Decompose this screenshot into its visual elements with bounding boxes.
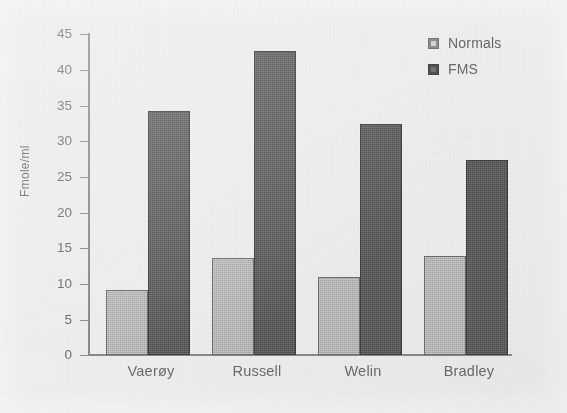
bar-group-welin — [314, 33, 414, 355]
x-tick-label-russell: Russell — [202, 363, 312, 379]
bar-vaeroy-normals — [106, 290, 148, 355]
bar-russell-normals — [212, 258, 254, 355]
legend-swatch-fms-icon — [428, 64, 439, 75]
legend-item-normals: Normals — [428, 32, 502, 54]
bar-vaeroy-fms — [148, 111, 190, 355]
bar-welin-fms — [360, 124, 402, 355]
y-tick-label: 25 — [38, 170, 72, 184]
legend-label-normals: Normals — [448, 35, 502, 51]
bar-welin-normals — [318, 277, 360, 355]
bar-russell-fms — [254, 51, 296, 355]
y-tick-mark — [80, 284, 88, 285]
bar-group-russell — [208, 33, 308, 355]
y-tick-label: 20 — [38, 206, 72, 220]
x-tick-label-bradley: Bradley — [414, 363, 524, 379]
y-tick-mark — [80, 248, 88, 249]
x-tick-label-vaeroy: Vaerøy — [96, 363, 206, 379]
legend-swatch-normals-icon — [428, 38, 439, 49]
legend: Normals FMS — [428, 32, 502, 84]
y-tick-mark — [80, 106, 88, 107]
plot-area: 45 40 35 30 25 20 15 10 5 0 Fmole/ml — [0, 0, 567, 413]
y-tick-mark — [80, 320, 88, 321]
y-tick-mark — [80, 34, 88, 35]
bar-bradley-fms — [466, 160, 508, 355]
bar-bradley-normals — [424, 256, 466, 355]
y-tick-mark — [80, 177, 88, 178]
y-tick-label: 5 — [38, 313, 72, 327]
y-tick-mark — [80, 141, 88, 142]
bar-group-vaeroy — [102, 33, 202, 355]
figure-scanned-bar-chart: 45 40 35 30 25 20 15 10 5 0 Fmole/ml — [0, 0, 567, 413]
y-tick-label: 15 — [38, 241, 72, 255]
x-tick-label-welin: Welin — [308, 363, 418, 379]
y-tick-label: 40 — [38, 63, 72, 77]
y-tick-mark — [80, 355, 88, 356]
y-tick-mark — [80, 213, 88, 214]
legend-item-fms: FMS — [428, 58, 502, 80]
y-tick-label: 10 — [38, 277, 72, 291]
y-tick-label: 0 — [38, 348, 72, 362]
y-axis-title-text: Fmole/ml — [18, 145, 32, 197]
y-tick-label: 35 — [38, 99, 72, 113]
y-tick-label: 30 — [38, 134, 72, 148]
y-tick-mark — [80, 70, 88, 71]
y-tick-label: 45 — [38, 27, 72, 41]
legend-label-fms: FMS — [448, 61, 478, 77]
